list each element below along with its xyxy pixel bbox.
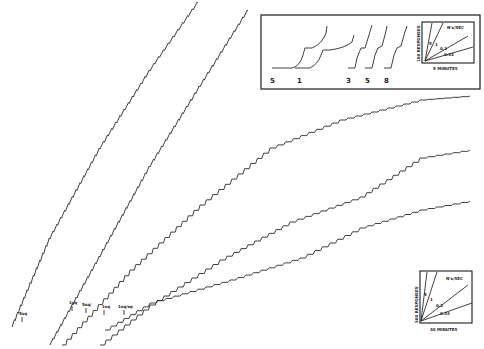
bkey-line-label-1: 1 xyxy=(430,297,433,302)
key-line-label-5: 5 xyxy=(429,41,432,46)
key-rate-label: N's/SEC xyxy=(447,25,464,30)
inset-label-3: 3 xyxy=(346,77,351,85)
inset-label-1: 1 xyxy=(297,77,302,85)
cumulative-record-figure: 5 1 3 5 8 N's/SEC 5 1 0.1 0.33 5 MINUTES… xyxy=(0,0,484,349)
marker-label-0: 5sq xyxy=(19,311,27,316)
key-y-label: 100 RESPONSES xyxy=(416,25,421,62)
key-line-label-01: 0.1 xyxy=(440,46,447,51)
bkey-y-label: 500 RESPONSES xyxy=(414,286,419,323)
top-inset: 5 1 3 5 8 N's/SEC 5 1 0.1 0.33 5 MINUTES… xyxy=(261,15,480,89)
marker-label-4: 1sq/sq xyxy=(118,304,133,309)
bottom-inset: N's/SEC 5 1 0.1 0.33 30 MINUTES 500 RESP… xyxy=(414,271,472,332)
marker-label-1: 1sq xyxy=(69,300,77,305)
key-line-label-033: 0.33 xyxy=(444,52,454,57)
inset-label-8: 8 xyxy=(384,77,389,85)
key-line-label-1: 1 xyxy=(435,42,438,47)
bkey-line-label-01: 0.1 xyxy=(436,303,443,308)
inset-label-5b: 5 xyxy=(365,77,370,85)
left-markers: 5sq 1sq 5sq/ 1sq 1sq/sq xyxy=(19,300,133,322)
record-curve-0 xyxy=(12,2,198,327)
bkey-rate-label: N's/SEC xyxy=(446,276,463,281)
key-x-label: 5 MINUTES xyxy=(433,66,458,71)
bkey-line-label-5: 5 xyxy=(424,292,427,297)
record-curve-1 xyxy=(50,10,248,345)
marker-label-3: 1sq xyxy=(102,304,110,309)
bkey-line-label-033: 0.33 xyxy=(440,311,450,316)
marker-label-2: 5sq/ xyxy=(82,302,92,307)
bkey-x-label: 30 MINUTES xyxy=(430,327,457,332)
inset-label-5: 5 xyxy=(270,77,275,85)
